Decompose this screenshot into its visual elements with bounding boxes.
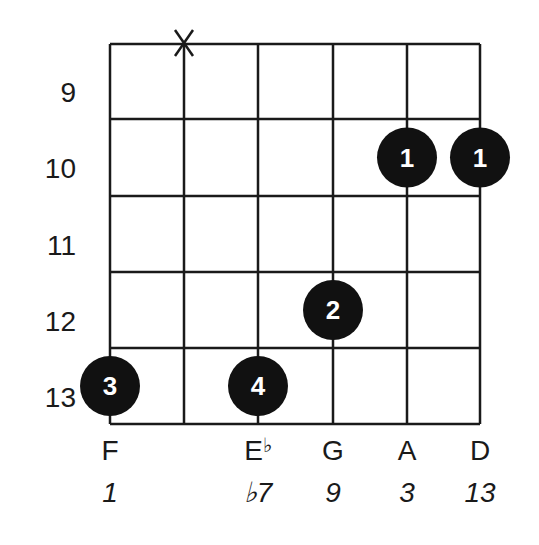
note-name: G bbox=[322, 435, 344, 466]
fret-number: 9 bbox=[60, 77, 76, 108]
interval-label: 1 bbox=[102, 477, 118, 508]
note-name: D bbox=[470, 435, 490, 466]
finger-number: 4 bbox=[251, 371, 266, 401]
note-name: F bbox=[101, 435, 118, 466]
fretboard-grid bbox=[110, 44, 480, 424]
finger-dot: 2 bbox=[303, 280, 363, 340]
finger-number: 2 bbox=[326, 295, 340, 325]
finger-number: 1 bbox=[473, 143, 487, 173]
interval-label: 9 bbox=[325, 477, 341, 508]
note-names: FE♭GAD bbox=[101, 434, 490, 466]
fret-number: 11 bbox=[47, 230, 76, 261]
finger-dot: 1 bbox=[377, 128, 437, 188]
finger-number: 3 bbox=[103, 371, 117, 401]
interval-label: 13 bbox=[464, 477, 496, 508]
interval-label: ♭7 bbox=[244, 477, 274, 508]
fret-number: 12 bbox=[45, 306, 76, 337]
interval-labels: 1♭79313 bbox=[102, 477, 496, 508]
note-name: A bbox=[398, 435, 417, 466]
fret-number: 13 bbox=[45, 382, 76, 413]
finger-dot: 4 bbox=[228, 356, 288, 416]
fret-numbers: 910111213 bbox=[45, 77, 76, 413]
chord-diagram: 910111213 11234 FE♭GAD 1♭79313 bbox=[0, 0, 539, 545]
finger-dot: 1 bbox=[450, 128, 510, 188]
interval-label: 3 bbox=[399, 477, 415, 508]
fret-number: 10 bbox=[45, 153, 76, 184]
flat-sign: ♭ bbox=[263, 434, 272, 456]
finger-number: 1 bbox=[400, 143, 414, 173]
note-name: E♭ bbox=[244, 434, 272, 466]
finger-dot: 3 bbox=[80, 356, 140, 416]
